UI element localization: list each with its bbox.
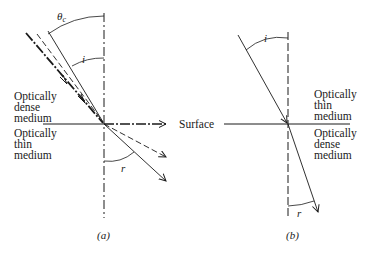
lower-medium-label-b: Optically dense medium bbox=[314, 127, 360, 161]
surface-label: Surface bbox=[179, 118, 214, 130]
incident-ray-dashed bbox=[37, 34, 103, 122]
upper-medium-label-a: Optically dense medium bbox=[14, 90, 60, 124]
critical-angle-label: θc bbox=[57, 10, 66, 24]
incidence-label-a: i bbox=[82, 53, 85, 65]
lower-medium-label-a: Optically thin medium bbox=[14, 127, 60, 161]
refraction-angle-arc-b bbox=[288, 201, 314, 206]
refraction-diagram: θc i r Optically dense medium Optically … bbox=[0, 0, 372, 253]
incident-ray-solid bbox=[48, 31, 103, 122]
refraction-label-a: r bbox=[121, 162, 126, 174]
incident-ray-b bbox=[238, 35, 287, 123]
caption-a: (a) bbox=[97, 229, 110, 242]
upper-medium-label-b: Optically thin medium bbox=[314, 88, 360, 122]
caption-b: (b) bbox=[286, 229, 299, 242]
incidence-label-b: i bbox=[264, 32, 267, 44]
refraction-label-b: r bbox=[297, 207, 302, 219]
panel-a: θc i r Optically dense medium Optically … bbox=[14, 10, 214, 242]
refraction-angle-arc-a bbox=[104, 152, 134, 161]
incidence-angle-arc-a bbox=[72, 58, 104, 66]
panel-b: i r Optically thin medium Optically dens… bbox=[224, 32, 360, 242]
